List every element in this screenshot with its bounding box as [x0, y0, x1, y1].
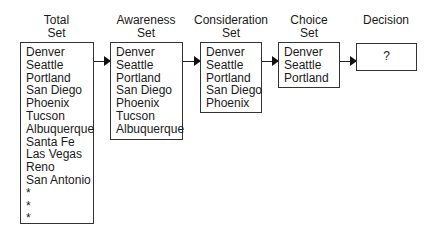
list-item: Seattle	[284, 59, 339, 72]
list-item: Seattle	[206, 59, 261, 72]
arrow-right-icon	[94, 61, 110, 62]
title-line: Set	[190, 27, 272, 40]
list-item: *	[26, 187, 93, 200]
list-item: Portland	[284, 72, 339, 85]
total-set-box-body: Denver Seattle Portland San Diego Phoeni…	[20, 42, 94, 224]
arrow-right-icon	[262, 61, 278, 62]
list-item: *	[26, 200, 93, 213]
awareness-set-title: Awareness Set	[110, 14, 182, 40]
arrow-right-icon	[183, 61, 200, 62]
list-item: Tucson	[26, 110, 93, 123]
decision-box: ?	[356, 43, 417, 71]
title-line: Set	[278, 27, 340, 40]
list-item: Denver	[206, 46, 261, 59]
list-item: Denver	[26, 46, 93, 59]
total-set-title: Total Set	[20, 14, 93, 40]
list-item: Phoenix	[206, 97, 261, 110]
list-item: Denver	[116, 46, 182, 59]
arrow-right-icon	[340, 61, 356, 62]
list-item: Denver	[284, 46, 339, 59]
choice-set-title: Choice Set	[278, 14, 340, 40]
decision-value: ?	[357, 50, 416, 63]
list-item: San Antonio	[26, 174, 93, 187]
choice-set-box: Denver Seattle Portland	[278, 42, 340, 88]
awareness-set-box: Denver Seattle Portland San Diego Phoeni…	[110, 42, 183, 140]
list-item: Seattle	[116, 59, 182, 72]
title-line: Set	[110, 27, 182, 40]
title-line: Set	[20, 27, 93, 40]
list-item: *	[26, 212, 93, 225]
list-item: Tucson	[116, 110, 182, 123]
list-item: Albuquerque	[26, 123, 93, 136]
consideration-set-box: Denver Seattle Portland San Diego Phoeni…	[200, 42, 262, 113]
consideration-set-title: Consideration Set	[190, 14, 272, 40]
list-item: Seattle	[26, 59, 93, 72]
list-item: Albuquerque	[116, 123, 182, 136]
title-line: Decision	[356, 14, 416, 27]
decision-title: Decision	[356, 14, 416, 27]
